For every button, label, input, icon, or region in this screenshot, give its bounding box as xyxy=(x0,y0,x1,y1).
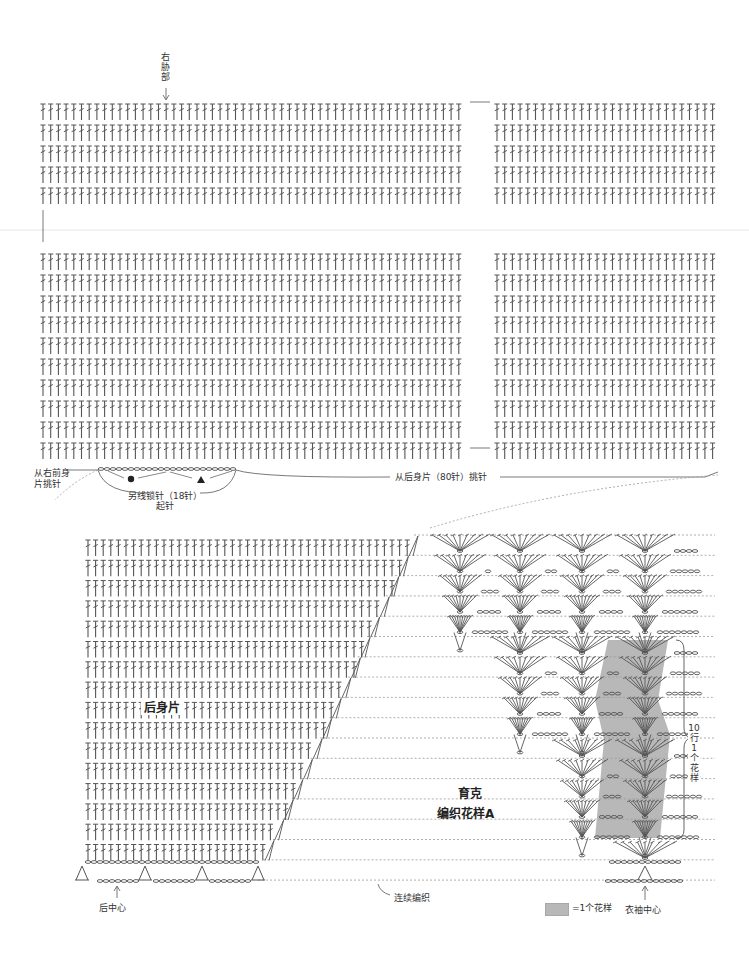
repeat-pattern-word2: 样 xyxy=(688,773,700,783)
sleeve-center-label: 衣袖中心 xyxy=(625,905,661,916)
pickup-back-label: 从后身片（80针）挑针 xyxy=(393,472,489,483)
repeat-bracket-label: 10 行 1 个 花 样 xyxy=(688,723,700,783)
back-body-stitch-grid xyxy=(85,536,418,863)
pickup-front-line2: 片挑针 xyxy=(34,479,70,490)
repeat-rows-unit: 行 xyxy=(688,733,700,743)
side-seam-label: 右胁部 xyxy=(160,52,172,82)
repeat-rows-count: 10 xyxy=(688,723,700,733)
pickup-front-line1: 从右前身 xyxy=(34,468,70,479)
top-stitch-grid xyxy=(40,104,715,459)
repeat-pattern-count: 1 xyxy=(688,743,700,753)
side-seam-text: 右胁部 xyxy=(160,52,170,82)
yoke-label: 育克 xyxy=(458,784,482,801)
pickup-front-label: 从右前身 片挑针 xyxy=(34,468,70,490)
top-chart-markers xyxy=(43,88,718,528)
repeat-pattern-measure: 个 xyxy=(688,753,700,763)
foundation-chain-label2: 起针 xyxy=(156,501,174,512)
continuous-knit-label: 连续编织 xyxy=(394,893,430,904)
back-center-label: 后中心 xyxy=(99,903,126,914)
legend-swatch xyxy=(545,903,569,916)
legend-label: =1个花样 xyxy=(572,903,612,914)
crochet-chart xyxy=(0,0,749,959)
back-body-label: 后身片 xyxy=(141,698,183,715)
pattern-a-label: 编织花样A xyxy=(437,804,494,821)
repeat-pattern-word1: 花 xyxy=(688,763,700,773)
